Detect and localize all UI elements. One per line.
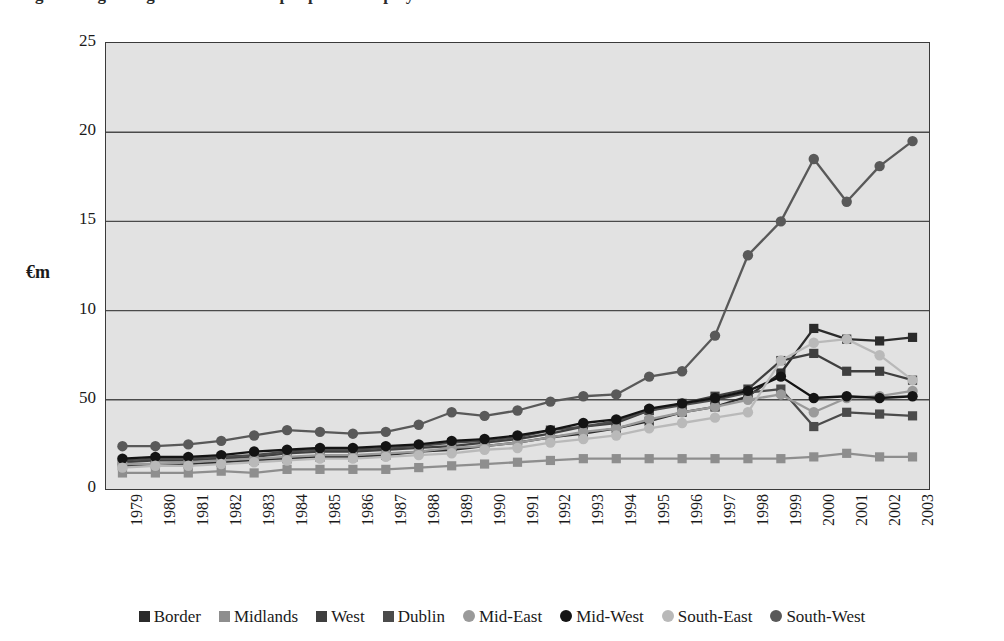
data-point-marker bbox=[282, 425, 292, 435]
legend-item-mid-east[interactable]: Mid-East bbox=[463, 608, 542, 625]
data-point-marker bbox=[842, 449, 851, 458]
data-point-marker bbox=[512, 443, 522, 453]
data-point-marker bbox=[677, 407, 687, 417]
data-point-marker bbox=[710, 393, 720, 403]
data-point-marker bbox=[249, 446, 259, 456]
data-point-marker bbox=[842, 197, 852, 207]
data-point-marker bbox=[842, 391, 852, 401]
data-point-marker bbox=[842, 367, 851, 376]
data-point-marker bbox=[249, 430, 259, 440]
data-point-marker bbox=[809, 154, 819, 164]
x-tick-label: 2002 bbox=[886, 494, 904, 554]
data-point-marker bbox=[710, 412, 720, 422]
legend-circle-icon bbox=[770, 610, 782, 622]
data-point-marker bbox=[315, 427, 325, 437]
legend-square-icon bbox=[316, 611, 327, 622]
data-point-marker bbox=[216, 450, 226, 460]
x-tick-label: 1979 bbox=[128, 494, 146, 554]
data-point-marker bbox=[842, 334, 852, 344]
data-point-marker bbox=[348, 465, 357, 474]
data-point-marker bbox=[117, 441, 127, 451]
legend-circle-icon bbox=[662, 610, 674, 622]
x-tick-label: 1982 bbox=[227, 494, 245, 554]
y-tick-label: 25 bbox=[54, 31, 96, 51]
data-point-marker bbox=[743, 454, 752, 463]
data-point-marker bbox=[710, 402, 720, 412]
legend-label: West bbox=[331, 608, 365, 625]
legend-label: Mid-West bbox=[576, 608, 644, 625]
data-point-marker bbox=[249, 457, 259, 467]
data-point-marker bbox=[710, 330, 720, 340]
y-axis-label: €m bbox=[26, 262, 50, 283]
data-point-marker bbox=[908, 452, 917, 461]
legend-circle-icon bbox=[463, 610, 475, 622]
data-point-marker bbox=[216, 436, 226, 446]
data-point-marker bbox=[480, 459, 489, 468]
plot-svg bbox=[106, 43, 929, 489]
data-point-marker bbox=[743, 250, 753, 260]
data-point-marker bbox=[578, 391, 588, 401]
data-point-marker bbox=[874, 350, 884, 360]
legend-item-south-east[interactable]: South-East bbox=[662, 608, 753, 625]
data-point-marker bbox=[875, 336, 884, 345]
x-tick-label: 1998 bbox=[754, 494, 772, 554]
data-point-marker bbox=[842, 408, 851, 417]
x-tick-label: 1984 bbox=[293, 494, 311, 554]
x-tick-label: 1997 bbox=[721, 494, 739, 554]
data-point-marker bbox=[546, 456, 555, 465]
data-point-marker bbox=[907, 391, 917, 401]
data-point-marker bbox=[809, 407, 819, 417]
data-point-marker bbox=[809, 422, 818, 431]
data-point-marker bbox=[282, 455, 292, 465]
legend-label: South-West bbox=[786, 608, 865, 625]
legend-item-south-west[interactable]: South-West bbox=[770, 608, 865, 625]
legend-item-border[interactable]: Border bbox=[139, 608, 201, 625]
data-point-marker bbox=[578, 434, 588, 444]
x-tick-label: 1981 bbox=[194, 494, 212, 554]
data-point-marker bbox=[677, 398, 687, 408]
data-point-marker bbox=[907, 375, 917, 385]
data-point-marker bbox=[875, 367, 884, 376]
y-tick-label: 10 bbox=[54, 299, 96, 319]
data-point-marker bbox=[743, 407, 753, 417]
data-point-marker bbox=[611, 389, 621, 399]
data-point-marker bbox=[677, 418, 687, 428]
x-tick-label: 1989 bbox=[458, 494, 476, 554]
data-point-marker bbox=[479, 434, 489, 444]
data-point-marker bbox=[809, 324, 818, 333]
data-point-marker bbox=[809, 393, 819, 403]
data-point-marker bbox=[545, 437, 555, 447]
data-point-marker bbox=[348, 443, 358, 453]
data-point-marker bbox=[678, 454, 687, 463]
x-tick-label: 1999 bbox=[787, 494, 805, 554]
data-point-marker bbox=[809, 338, 819, 348]
data-point-marker bbox=[348, 428, 358, 438]
data-point-marker bbox=[578, 418, 588, 428]
data-point-marker bbox=[644, 423, 654, 433]
x-tick-label: 1987 bbox=[392, 494, 410, 554]
data-point-marker bbox=[183, 452, 193, 462]
data-point-marker bbox=[644, 371, 654, 381]
data-point-marker bbox=[381, 441, 391, 451]
data-point-marker bbox=[611, 414, 621, 424]
data-point-marker bbox=[414, 420, 424, 430]
data-point-marker bbox=[645, 454, 654, 463]
data-point-marker bbox=[414, 439, 424, 449]
data-point-marker bbox=[874, 161, 884, 171]
data-point-marker bbox=[776, 355, 786, 365]
data-point-marker bbox=[907, 136, 917, 146]
legend-item-mid-west[interactable]: Mid-West bbox=[560, 608, 644, 625]
data-point-marker bbox=[908, 411, 917, 420]
legend-item-dublin[interactable]: Dublin bbox=[383, 608, 445, 625]
legend-label: Dublin bbox=[398, 608, 445, 625]
x-tick-label: 2003 bbox=[919, 494, 937, 554]
legend-item-midlands[interactable]: Midlands bbox=[219, 608, 298, 625]
data-point-marker bbox=[315, 443, 325, 453]
legend-item-west[interactable]: West bbox=[316, 608, 365, 625]
x-axis-ticks: 1979198019811982198319841985198619871988… bbox=[105, 492, 930, 572]
x-tick-label: 1992 bbox=[556, 494, 574, 554]
y-tick-label: 15 bbox=[54, 209, 96, 229]
chart-legend: BorderMidlandsWestDublinMid-EastMid-West… bbox=[0, 600, 1004, 632]
data-point-marker bbox=[479, 411, 489, 421]
x-tick-label: 2000 bbox=[820, 494, 838, 554]
